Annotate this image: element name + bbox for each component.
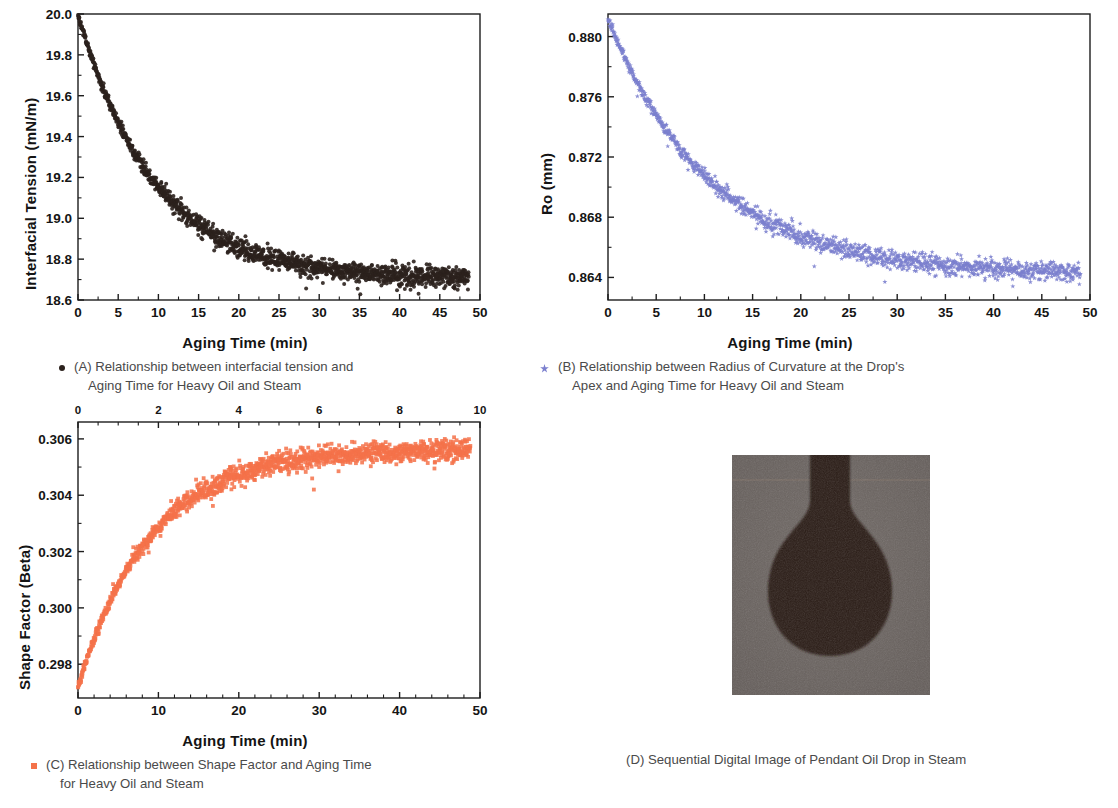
panel-c-ytick-1: 0.300 bbox=[18, 600, 72, 615]
panel-b-xtick-0: 0 bbox=[604, 305, 612, 320]
panel-c-top-xtick-1: 2 bbox=[155, 404, 161, 416]
panel-a-xtick-2: 10 bbox=[151, 305, 166, 320]
panel-b: Ro (mm) Aging Time (min) (B) Relationshi… bbox=[500, 0, 1118, 400]
panel-a-ytick-2: 19.0 bbox=[18, 211, 72, 226]
panel-c-x-axis-title: Aging Time (min) bbox=[80, 732, 410, 749]
panel-c-ytick-3: 0.304 bbox=[18, 488, 72, 503]
panel-b-ytick-0: 0.864 bbox=[548, 270, 602, 285]
panel-c-xtick-2: 20 bbox=[231, 703, 246, 718]
panel-a-ytick-7: 20.0 bbox=[18, 7, 72, 22]
panel-b-caption: (B) Relationship between Radius of Curva… bbox=[540, 358, 1100, 395]
panel-a-ytick-1: 18.8 bbox=[18, 252, 72, 267]
panel-a-ytick-3: 19.2 bbox=[18, 170, 72, 185]
panel-b-x-axis-title: Aging Time (min) bbox=[610, 334, 970, 351]
figure-root: Interfacial Tension (mN/m) Aging Time (m… bbox=[0, 0, 1118, 808]
panel-a-ytick-4: 19.4 bbox=[18, 129, 72, 144]
panel-a-xtick-0: 0 bbox=[74, 305, 82, 320]
panel-c-ytick-0: 0.298 bbox=[18, 657, 72, 672]
panel-b-xtick-1: 5 bbox=[652, 305, 660, 320]
panel-b-xtick-4: 20 bbox=[793, 305, 808, 320]
panel-a-ytick-5: 19.6 bbox=[18, 88, 72, 103]
panel-c-top-xtick-5: 10 bbox=[474, 404, 487, 416]
panel-c-ytick-2: 0.302 bbox=[18, 544, 72, 559]
panel-b-data-points bbox=[606, 17, 1083, 289]
panel-b-xtick-3: 15 bbox=[745, 305, 760, 320]
panel-b-xtick-6: 30 bbox=[890, 305, 905, 320]
panel-a-x-axis-title: Aging Time (min) bbox=[80, 334, 410, 351]
panel-b-xtick-9: 45 bbox=[1034, 305, 1049, 320]
panel-a-xtick-5: 25 bbox=[271, 305, 286, 320]
panel-c-plot bbox=[0, 400, 500, 730]
panel-c-caption-line1: (C) Relationship between Shape Factor an… bbox=[46, 756, 470, 775]
panel-a-ytick-0: 18.6 bbox=[18, 293, 72, 308]
panel-a-ytick-6: 19.8 bbox=[18, 47, 72, 62]
panel-b-xtick-8: 40 bbox=[986, 305, 1001, 320]
panel-d: (D) Sequential Digital Image of Pendant … bbox=[500, 400, 1118, 808]
panel-b-xtick-2: 10 bbox=[697, 305, 712, 320]
panel-a-xtick-4: 20 bbox=[231, 305, 246, 320]
panel-b-caption-line1: (B) Relationship between Radius of Curva… bbox=[558, 358, 1100, 377]
panel-b-xtick-5: 25 bbox=[841, 305, 856, 320]
panel-b-ytick-1: 0.868 bbox=[548, 210, 602, 225]
panel-a-data-points bbox=[76, 13, 471, 296]
panel-a-caption-line1: (A) Relationship between interfacial ten… bbox=[74, 358, 458, 377]
panel-d-caption: (D) Sequential Digital Image of Pendant … bbox=[626, 752, 966, 767]
panel-a-caption: (A) Relationship between interfacial ten… bbox=[58, 358, 458, 395]
panel-c-xtick-4: 40 bbox=[392, 703, 407, 718]
panel-a-xtick-6: 30 bbox=[312, 305, 327, 320]
pendant-drop-photo bbox=[732, 455, 930, 695]
panel-c-xtick-5: 50 bbox=[472, 703, 487, 718]
panel-a-xtick-9: 45 bbox=[432, 305, 447, 320]
panel-c-data-points bbox=[76, 435, 472, 689]
panel-c-caption-line2: for Heavy Oil and Steam bbox=[46, 775, 470, 794]
legend-star-icon bbox=[540, 364, 549, 373]
panel-a-caption-line2: Aging Time for Heavy Oil and Steam bbox=[74, 377, 458, 396]
panel-a-plot bbox=[0, 0, 500, 330]
panel-c-top-xtick-4: 8 bbox=[396, 404, 402, 416]
panel-a-xtick-1: 5 bbox=[114, 305, 122, 320]
panel-b-ytick-3: 0.876 bbox=[548, 89, 602, 104]
legend-square-icon bbox=[31, 763, 37, 769]
panel-c-xtick-0: 0 bbox=[74, 703, 82, 718]
panel-c-xtick-1: 10 bbox=[151, 703, 166, 718]
panel-c: Shape Factor (Beta) Aging Time (min) (C)… bbox=[0, 400, 500, 808]
panel-a-xtick-10: 50 bbox=[472, 305, 487, 320]
panel-a-xtick-7: 35 bbox=[352, 305, 367, 320]
panel-c-ytick-4: 0.306 bbox=[18, 431, 72, 446]
panel-c-top-xtick-0: 0 bbox=[75, 404, 81, 416]
legend-circle-icon bbox=[59, 365, 65, 371]
panel-b-xtick-10: 50 bbox=[1082, 305, 1097, 320]
panel-b-ytick-2: 0.872 bbox=[548, 150, 602, 165]
panel-a-xtick-8: 40 bbox=[392, 305, 407, 320]
panel-c-xtick-3: 30 bbox=[312, 703, 327, 718]
panel-a: Interfacial Tension (mN/m) Aging Time (m… bbox=[0, 0, 500, 400]
panel-a-xtick-3: 15 bbox=[191, 305, 206, 320]
pendant-drop-image bbox=[732, 455, 930, 695]
panel-b-ytick-4: 0.880 bbox=[548, 29, 602, 44]
panel-c-top-xtick-3: 6 bbox=[316, 404, 322, 416]
panel-c-top-xtick-2: 4 bbox=[236, 404, 242, 416]
panel-c-caption: (C) Relationship between Shape Factor an… bbox=[30, 756, 470, 793]
panel-b-caption-line2: Apex and Aging Time for Heavy Oil and St… bbox=[558, 377, 1100, 396]
panel-b-xtick-7: 35 bbox=[938, 305, 953, 320]
